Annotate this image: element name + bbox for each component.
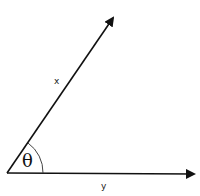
vector-y-line — [7, 173, 194, 174]
vector-x-label: x — [54, 76, 60, 86]
vector-y-label: y — [101, 181, 107, 191]
vector-angle-diagram: θ x y — [0, 0, 200, 196]
diagram-svg: θ x y — [0, 0, 200, 196]
angle-label-theta: θ — [22, 150, 33, 171]
